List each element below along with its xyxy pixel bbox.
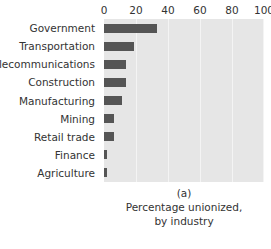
- caption-line-2: by industry: [104, 214, 264, 228]
- bar-row: [104, 132, 264, 141]
- bar-government: [104, 24, 157, 33]
- bar-row: [104, 150, 264, 159]
- bar-row: [104, 96, 264, 105]
- bar-mining: [104, 114, 114, 123]
- bar-row: [104, 114, 264, 123]
- x-tick-label-0: 0: [101, 4, 108, 16]
- y-axis-category-labels: GovernmentTransportationTelecommunicatio…: [0, 19, 100, 182]
- y-label-government: Government: [30, 22, 95, 34]
- figure-caption: (a) Percentage unionized, by industry: [104, 186, 264, 228]
- bar-construction: [104, 78, 126, 87]
- x-axis-tick-labels: 020406080100: [104, 4, 264, 18]
- bar-row: [104, 60, 264, 69]
- y-label-agriculture: Agriculture: [37, 167, 95, 179]
- bar-agriculture: [104, 168, 107, 177]
- x-tick-label-80: 80: [225, 4, 238, 16]
- bar-row: [104, 168, 264, 177]
- y-label-transportation: Transportation: [19, 40, 95, 52]
- y-label-construction: Construction: [28, 76, 95, 88]
- bar-row: [104, 78, 264, 87]
- caption-panel-label: (a): [104, 186, 264, 200]
- x-tick-label-100: 100: [254, 4, 271, 16]
- bar-transportation: [104, 42, 134, 51]
- bar-finance: [104, 150, 107, 159]
- y-label-retail-trade: Retail trade: [34, 131, 95, 143]
- plot-area: [104, 19, 264, 182]
- x-tick-label-60: 60: [193, 4, 206, 16]
- bar-row: [104, 24, 264, 33]
- caption-line-1: Percentage unionized,: [104, 200, 264, 214]
- y-label-finance: Finance: [55, 149, 95, 161]
- figure-panel-a: 020406080100 GovernmentTransportationTel…: [0, 0, 271, 249]
- y-label-manufacturing: Manufacturing: [19, 95, 95, 107]
- x-tick-label-20: 20: [129, 4, 142, 16]
- bar-manufacturing: [104, 96, 122, 105]
- bar-retail-trade: [104, 132, 114, 141]
- bar-row: [104, 42, 264, 51]
- x-tick-label-40: 40: [161, 4, 174, 16]
- bar-telecommunications: [104, 60, 126, 69]
- y-label-telecommunications: Telecommunications: [0, 58, 95, 70]
- y-label-mining: Mining: [60, 113, 95, 125]
